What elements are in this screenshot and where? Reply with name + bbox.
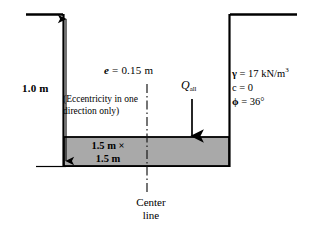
load-symbol: Q (181, 78, 190, 92)
unit-weight-exponent: 3 (285, 66, 289, 74)
soil-properties-list: γ = 17 kN/m3 c = 0 ϕ = 36° (232, 66, 289, 109)
cohesion-equals: = (239, 82, 245, 93)
unit-weight-value: 17 kN/m (248, 68, 285, 79)
center-line-label: Center line (120, 196, 182, 223)
eccentricity-value: 0.15 m (121, 64, 153, 76)
soil-property-friction-angle: ϕ = 36° (232, 95, 289, 109)
eccentricity-note: (Eccentricity in one direction only) (63, 93, 149, 117)
soil-property-unit-weight: γ = 17 kN/m3 (232, 66, 289, 81)
depth-dimension-label: 1.0 m (22, 82, 49, 94)
cohesion-symbol: c (232, 82, 237, 93)
friction-angle-value: 36° (250, 96, 265, 107)
eccentricity-label: e = 0.15 m (104, 64, 153, 76)
eccentricity-equals: = (112, 64, 118, 76)
center-line-label-line1: Center (120, 196, 182, 209)
cohesion-value: 0 (248, 82, 253, 93)
unit-weight-symbol: γ (232, 68, 237, 79)
allowable-load-label: Qall (181, 79, 196, 92)
eccentricity-symbol: e (104, 64, 109, 76)
unit-weight-equals: = (240, 68, 246, 79)
load-subscript: all (190, 85, 197, 93)
soil-property-cohesion: c = 0 (232, 81, 289, 95)
friction-angle-symbol: ϕ (232, 96, 239, 107)
friction-angle-equals: = (241, 96, 247, 107)
footing-dimension-line1: 1.5 m × (72, 139, 144, 152)
soil-mass-left (0, 14, 63, 179)
center-line-label-line2: line (120, 209, 182, 222)
footing-dimension-label: 1.5 m × 1.5 m (72, 139, 144, 165)
footing-dimension-line2: 1.5 m (72, 152, 144, 165)
